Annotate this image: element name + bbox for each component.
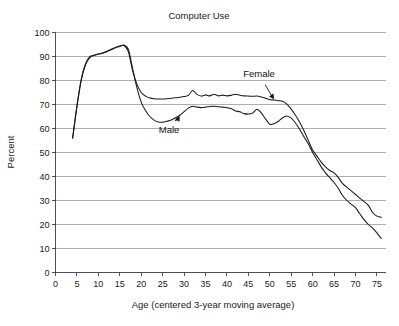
y-axis-tick-labels: 0102030405060708090100 <box>34 28 49 278</box>
y-axis-title: Percent <box>5 135 16 168</box>
series-line-male <box>73 45 382 239</box>
x-tick-label-15: 15 <box>115 279 125 289</box>
x-tick-label-25: 25 <box>158 279 168 289</box>
y-tick-label-10: 10 <box>39 244 49 254</box>
x-tick-label-65: 65 <box>329 279 339 289</box>
x-tick-label-20: 20 <box>136 279 146 289</box>
x-tick-label-0: 0 <box>53 279 58 289</box>
x-tick-label-40: 40 <box>222 279 232 289</box>
y-tick-label-60: 60 <box>39 124 49 134</box>
series-annotations: FemaleMale <box>159 68 275 135</box>
x-tick-label-75: 75 <box>372 279 382 289</box>
y-tick-label-0: 0 <box>44 268 49 278</box>
axes <box>52 33 386 277</box>
y-tick-label-20: 20 <box>39 220 49 230</box>
chart-container: 0102030405060708090100 05101520253035404… <box>0 0 399 326</box>
y-tick-label-80: 80 <box>39 76 49 86</box>
computer-use-line-chart: 0102030405060708090100 05101520253035404… <box>0 0 399 326</box>
annotation-arrow-female <box>269 94 274 100</box>
chart-title: Computer Use <box>168 10 229 21</box>
y-tick-label-50: 50 <box>39 148 49 158</box>
x-axis-tick-labels: 051015202530354045505560657075 <box>53 279 382 289</box>
y-tick-label-70: 70 <box>39 100 49 110</box>
series-line-female <box>73 45 382 217</box>
x-tick-label-55: 55 <box>286 279 296 289</box>
gridlines <box>56 33 386 249</box>
x-tick-label-30: 30 <box>179 279 189 289</box>
annotation-label-male: Male <box>159 124 180 135</box>
x-tick-label-50: 50 <box>265 279 275 289</box>
x-tick-label-70: 70 <box>350 279 360 289</box>
annotation-label-female: Female <box>243 68 275 79</box>
y-tick-label-90: 90 <box>39 52 49 62</box>
x-tick-label-35: 35 <box>200 279 210 289</box>
x-tick-label-45: 45 <box>243 279 253 289</box>
y-tick-label-40: 40 <box>39 172 49 182</box>
data-series <box>73 45 382 239</box>
x-tick-label-10: 10 <box>93 279 103 289</box>
y-tick-label-100: 100 <box>34 28 49 38</box>
x-axis-title: Age (centered 3-year moving average) <box>132 299 295 310</box>
x-tick-label-60: 60 <box>308 279 318 289</box>
y-tick-label-30: 30 <box>39 196 49 206</box>
annotation-leader-female <box>265 85 271 96</box>
x-tick-label-5: 5 <box>74 279 79 289</box>
